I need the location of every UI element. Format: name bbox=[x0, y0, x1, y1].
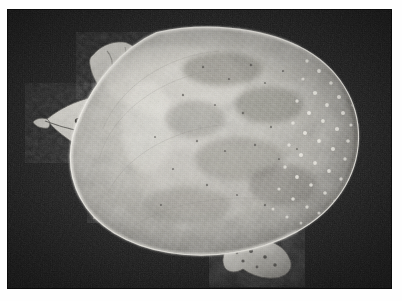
film-grain bbox=[7, 9, 392, 289]
photograph-print bbox=[7, 9, 392, 289]
photograph-page: Softshell turtle, dorsal view bbox=[0, 0, 402, 301]
page-title: Softshell turtle, dorsal view bbox=[0, 21, 1, 22]
turtle-subject bbox=[7, 9, 392, 289]
